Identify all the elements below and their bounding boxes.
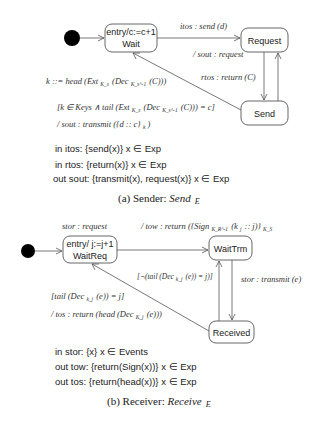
transition-label-waittrm-to-received: stor : transmit (e) [241, 274, 301, 284]
svg-text:/ tos : return (head (Dec: / tos : return (head (Dec K_j (e))) [50, 309, 162, 321]
svg-text:[¬(tail (Dec k_j: [¬(tail (Dec k_j (e)) = j)] [137, 272, 213, 283]
label-subscript: K_R^-1 [210, 226, 228, 232]
svg-text:k ::= head (Ext K_s: k ::= head (Ext K_s (Dec K_s^-1 (C))) [46, 76, 166, 88]
transition-label-waitreq-trigger: stor : request [62, 221, 108, 231]
svg-text:[k ∈ Keys ∧ tail (Ext: [k ∈ Keys ∧ tail (Ext K_s (Dec K_s^-1 (C… [57, 102, 215, 114]
sender-initial-state [64, 30, 80, 46]
state-send[interactable]: Send [241, 101, 288, 125]
transition-label-received-to-waitreq-guard: [tail (Dec k_j (e)) = j] [51, 291, 124, 303]
state-request[interactable]: Request [241, 28, 288, 52]
sender-diagram: entry/c:=c+1 Wait Request Send itos : se… [46, 21, 288, 206]
label-text: / sout : transmit ({d :: c} [56, 119, 141, 129]
label-text: (e)) = j] [96, 291, 124, 301]
receiver-declaration: out tos: {return(head(x))} x ∈ Exp [55, 376, 197, 387]
receiver-caption: (b) Receiver: Receive E [107, 391, 211, 409]
label-subscript: K_S [262, 226, 272, 232]
caption-prefix: (a) Sender: [118, 192, 169, 205]
label-subscript: K_s^-1 [161, 107, 178, 113]
state-name: Received [213, 328, 251, 338]
label-text: (C))) = c] [181, 102, 215, 112]
state-waittrm[interactable]: WaitTrm [209, 236, 252, 260]
label-text: (C))) [149, 76, 166, 86]
label-subscript: K_s [131, 107, 141, 113]
label-text: (e)) = j)] [185, 272, 212, 281]
label-subscript: k_j [176, 276, 183, 282]
sender-declaration: in rtos: {return(x)} x ∈ Exp [55, 159, 166, 170]
state-name: Request [248, 36, 282, 46]
label-text: (k [231, 221, 238, 231]
svg-text:/ sout : transmit ({d :: c}: / sout : transmit ({d :: c} k ) [56, 119, 150, 131]
caption-subscript: E [205, 400, 211, 409]
label-subscript: K_s^-1 [130, 81, 147, 87]
state-machine-diagrams: entry/c:=c+1 Wait Request Send itos : se… [0, 0, 323, 432]
state-name: WaitReq [73, 251, 107, 261]
state-name: Send [254, 109, 275, 119]
caption-prefix: (b) Receiver: [107, 395, 167, 408]
receiver-initial-state [21, 244, 35, 258]
label-subscript: k [143, 124, 146, 130]
label-text: [tail (Dec [51, 291, 85, 301]
svg-text:/ tow : return ({Sign: / tow : return ({Sign K_R^-1 (k j :: j)}… [140, 221, 273, 233]
transition-label-send-to-wait-assign: k ::= head (Ext K_s (Dec K_s^-1 (C))) [46, 76, 166, 88]
state-received[interactable]: Received [209, 321, 254, 343]
state-name: Wait [122, 39, 140, 49]
caption-name: Receive [166, 395, 201, 407]
state-entry-action: entry/ j:=j+1 [66, 239, 113, 249]
label-text: / tos : return (head (Dec [50, 309, 134, 319]
label-text: (Dec [144, 102, 161, 112]
svg-text:[tail (Dec k_j: [tail (Dec k_j (e)) = j] [51, 291, 124, 303]
label-text: (Dec [112, 76, 129, 86]
label-subscript: K_j [135, 314, 144, 320]
label-subscript: K_s [99, 81, 109, 87]
transition-label-send-to-wait-guard: [k ∈ Keys ∧ tail (Ext K_s (Dec K_s^-1 (C… [57, 102, 215, 114]
label-text: ) [146, 119, 150, 129]
sender-declaration: out sout: {transmit(x), request(x)} x ∈ … [53, 173, 229, 184]
label-text: (e))) [147, 309, 162, 319]
receiver-declaration: in stor: {x} x ∈ Events [55, 346, 148, 357]
receiver-declaration: out tow: {return(Sign(x))} x ∈ Exp [55, 361, 197, 372]
label-text: :: j)} [245, 221, 262, 231]
label-text: [¬(tail (Dec [137, 272, 175, 281]
sender-declaration: in itos: {send(x)} x ∈ Exp [55, 143, 161, 154]
transition-label-received-to-waitreq-action: / tos : return (head (Dec K_j (e))) [50, 309, 162, 321]
receiver-diagram: entry/ j:=j+1 WaitReq WaitTrm Received s… [21, 221, 301, 409]
label-subscript: j [239, 226, 242, 232]
label-subscript: k_j [86, 296, 93, 302]
sender-caption: (a) Sender: Send E [118, 188, 200, 206]
label-text: k ::= head (Ext [46, 76, 99, 86]
label-text: / tow : return ({Sign [140, 221, 209, 231]
state-waitreq[interactable]: entry/ j:=j+1 WaitReq [63, 236, 117, 263]
state-name: WaitTrm [214, 244, 247, 254]
state-entry-action: entry/c:=c+1 [106, 27, 156, 37]
state-wait[interactable]: entry/c:=c+1 Wait [105, 24, 157, 52]
transition-label-send-to-request: rtos : return (C) [201, 72, 256, 82]
caption-name: Send [169, 192, 191, 204]
transition-label-wait-to-request: itos : send (d) [180, 21, 227, 31]
transition-label-request-to-send: / sout : request [192, 49, 244, 59]
label-text: [k ∈ Keys ∧ tail (Ext [57, 102, 130, 112]
caption-subscript: E [194, 197, 200, 206]
transition-label-waitreq-to-waittrm: / tow : return ({Sign K_R^-1 (k j :: j)}… [140, 221, 273, 233]
transition-label-received-to-waittrm: [¬(tail (Dec k_j (e)) = j)] [137, 272, 213, 283]
transition-label-send-to-wait-action: / sout : transmit ({d :: c} k ) [56, 119, 150, 131]
